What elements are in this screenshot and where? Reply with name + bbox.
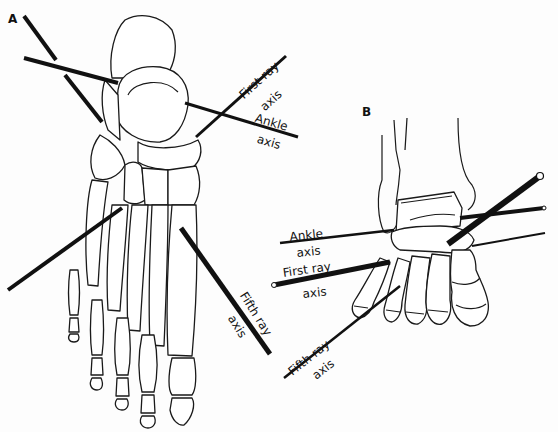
label-b-ankle-axis: axis (296, 244, 321, 258)
panel-label-a: A (8, 12, 17, 26)
foot-skeleton-drawing (0, 0, 558, 432)
panel-a-foot-skeleton (69, 16, 201, 428)
label-b-first-ray-axis: axis (302, 285, 327, 299)
label-b-ankle: Ankle (289, 227, 324, 242)
panel-label-b: B (362, 105, 371, 119)
panel-b-foot-skeleton (352, 118, 488, 326)
foot-axes-figure: A B First ray axis Ankle axis Fifth ray … (0, 0, 558, 432)
ankle-axis-line-a (24, 58, 118, 83)
